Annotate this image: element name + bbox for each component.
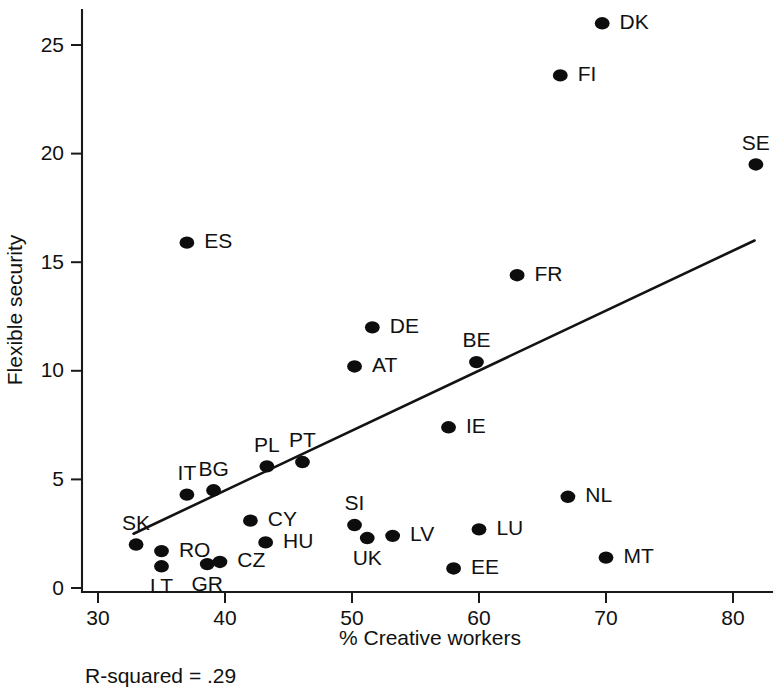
point-label: FR bbox=[535, 262, 563, 285]
point-marker[interactable] bbox=[243, 514, 258, 526]
point-marker[interactable] bbox=[129, 538, 144, 550]
point-label: BG bbox=[198, 457, 228, 480]
data-point-hu[interactable]: HU bbox=[258, 529, 313, 552]
point-label: DK bbox=[620, 10, 649, 33]
data-point-de[interactable]: DE bbox=[365, 314, 419, 337]
point-marker[interactable] bbox=[510, 269, 525, 281]
point-label: PL bbox=[254, 433, 280, 456]
point-label: GR bbox=[191, 572, 223, 595]
point-marker[interactable] bbox=[446, 562, 461, 574]
point-label: HU bbox=[283, 529, 313, 552]
data-point-nl[interactable]: NL bbox=[561, 483, 613, 506]
point-marker[interactable] bbox=[206, 484, 221, 496]
point-marker[interactable] bbox=[213, 556, 228, 568]
data-point-it[interactable]: IT bbox=[178, 461, 197, 501]
y-tick-label: 15 bbox=[41, 250, 64, 273]
data-point-sk[interactable]: SK bbox=[122, 511, 150, 551]
data-point-lu[interactable]: LU bbox=[472, 516, 524, 539]
point-marker[interactable] bbox=[748, 158, 763, 170]
point-label: EE bbox=[471, 555, 499, 578]
point-label: IT bbox=[178, 461, 197, 484]
point-marker[interactable] bbox=[385, 530, 400, 542]
point-label: ES bbox=[204, 229, 232, 252]
data-point-mt[interactable]: MT bbox=[599, 544, 654, 567]
data-point-ie[interactable]: IE bbox=[441, 414, 486, 437]
data-points: DKFISEESFRDEBEATIEPTPLBGITNLCYSILULVUKHU… bbox=[122, 10, 770, 597]
point-label: SK bbox=[122, 511, 150, 534]
point-marker[interactable] bbox=[441, 421, 456, 433]
x-tick-label: 80 bbox=[721, 606, 744, 629]
data-point-ro[interactable]: RO bbox=[154, 538, 210, 561]
data-point-se[interactable]: SE bbox=[742, 131, 770, 171]
x-tick-label: 70 bbox=[594, 606, 617, 629]
point-marker[interactable] bbox=[180, 488, 195, 500]
point-marker[interactable] bbox=[469, 356, 484, 368]
point-label: AT bbox=[372, 353, 397, 376]
data-point-uk[interactable]: UK bbox=[353, 532, 382, 569]
point-label: FI bbox=[578, 62, 597, 85]
point-marker[interactable] bbox=[258, 536, 273, 548]
point-marker[interactable] bbox=[347, 360, 362, 372]
data-point-fi[interactable]: FI bbox=[553, 62, 596, 85]
trend-line bbox=[134, 240, 755, 533]
point-label: CY bbox=[268, 507, 297, 530]
data-point-be[interactable]: BE bbox=[462, 328, 490, 368]
data-point-ee[interactable]: EE bbox=[446, 555, 499, 578]
point-marker[interactable] bbox=[599, 551, 614, 563]
data-point-pt[interactable]: PT bbox=[289, 428, 316, 468]
point-marker[interactable] bbox=[561, 491, 576, 503]
x-tick-label: 30 bbox=[86, 606, 109, 629]
point-label: BE bbox=[462, 328, 490, 351]
data-point-cy[interactable]: CY bbox=[243, 507, 297, 530]
data-point-dk[interactable]: DK bbox=[595, 10, 649, 33]
point-label: RO bbox=[179, 538, 211, 561]
point-label: CZ bbox=[237, 548, 265, 571]
regression-line bbox=[134, 240, 755, 533]
point-label: LU bbox=[496, 516, 523, 539]
point-label: IE bbox=[466, 414, 486, 437]
point-label: DE bbox=[390, 314, 419, 337]
point-marker[interactable] bbox=[200, 558, 215, 570]
data-point-si[interactable]: SI bbox=[345, 491, 365, 531]
scatter-chart: 0510152025304050607080 DKFISEESFRDEBEATI… bbox=[0, 0, 777, 700]
point-marker[interactable] bbox=[553, 69, 568, 81]
point-label: PT bbox=[289, 428, 316, 451]
point-marker[interactable] bbox=[472, 523, 487, 535]
y-tick-label: 10 bbox=[41, 358, 64, 381]
point-marker[interactable] bbox=[360, 532, 375, 544]
data-point-lv[interactable]: LV bbox=[385, 522, 434, 545]
data-point-at[interactable]: AT bbox=[347, 353, 397, 376]
x-axis-title: % Creative workers bbox=[339, 626, 521, 649]
point-marker[interactable] bbox=[595, 17, 610, 29]
point-label: LV bbox=[410, 522, 434, 545]
data-point-fr[interactable]: FR bbox=[510, 262, 563, 285]
axes bbox=[82, 10, 772, 592]
r-squared-annotation: R-squared = .29 bbox=[85, 664, 236, 687]
y-tick-label: 25 bbox=[41, 33, 64, 56]
point-marker[interactable] bbox=[295, 456, 310, 468]
point-marker[interactable] bbox=[180, 236, 195, 248]
plot-canvas: 0510152025304050607080 DKFISEESFRDEBEATI… bbox=[0, 0, 777, 700]
point-label: SI bbox=[345, 491, 365, 514]
y-tick-label: 5 bbox=[52, 467, 64, 490]
point-label: UK bbox=[353, 546, 382, 569]
data-point-lt[interactable]: LT bbox=[150, 560, 173, 597]
data-point-cz[interactable]: CZ bbox=[213, 548, 266, 571]
point-label: MT bbox=[623, 544, 653, 567]
point-label: LT bbox=[150, 574, 173, 597]
point-label: NL bbox=[585, 483, 612, 506]
point-marker[interactable] bbox=[365, 321, 380, 333]
data-point-es[interactable]: ES bbox=[180, 229, 233, 252]
point-marker[interactable] bbox=[260, 460, 275, 472]
point-marker[interactable] bbox=[154, 545, 169, 557]
point-marker[interactable] bbox=[154, 560, 169, 572]
y-tick-label: 0 bbox=[52, 576, 64, 599]
y-axis-title: Flexible security bbox=[3, 234, 26, 385]
point-label: SE bbox=[742, 131, 770, 154]
y-tick-label: 20 bbox=[41, 141, 64, 164]
x-tick-label: 40 bbox=[213, 606, 236, 629]
point-marker[interactable] bbox=[347, 519, 362, 531]
